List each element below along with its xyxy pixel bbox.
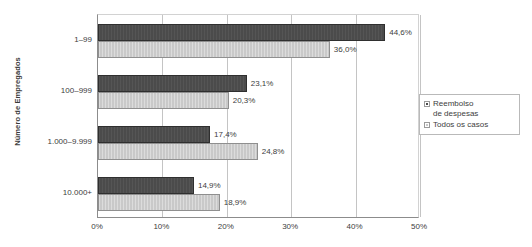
bar-group: 14,9%18,9% bbox=[98, 177, 418, 211]
x-axis-tick-label: 20% bbox=[206, 222, 246, 231]
bar-groups: 44,6%36,0%23,1%20,3%17,4%24,8%14,9%18,9% bbox=[98, 15, 418, 217]
plot-area: 44,6%36,0%23,1%20,3%17,4%24,8%14,9%18,9% bbox=[97, 14, 419, 218]
legend-label: Todos os casos bbox=[433, 120, 488, 130]
bar bbox=[98, 194, 220, 211]
legend-label: Reembolso de despesas bbox=[433, 99, 478, 119]
x-axis-tick-labels: 0%10%20%30%40%50% bbox=[97, 222, 419, 236]
bar-value-label: 20,3% bbox=[233, 92, 256, 109]
bar-value-label: 17,4% bbox=[214, 126, 237, 143]
legend-swatch-icon bbox=[424, 101, 430, 107]
bar bbox=[98, 92, 229, 109]
bar-value-label: 23,1% bbox=[251, 75, 274, 92]
bar-value-label: 44,6% bbox=[389, 24, 412, 41]
x-axis-tick-label: 40% bbox=[335, 222, 375, 231]
bar bbox=[98, 126, 210, 143]
bar bbox=[98, 24, 385, 41]
x-axis-tick-label: 10% bbox=[141, 222, 181, 231]
bar bbox=[98, 41, 330, 58]
bar-value-label: 14,9% bbox=[198, 177, 221, 194]
legend-item[interactable]: Todos os casos bbox=[424, 120, 516, 130]
x-axis-tick-label: 0% bbox=[77, 222, 117, 231]
legend-swatch-icon bbox=[424, 122, 430, 128]
x-axis-tick-label: 30% bbox=[270, 222, 310, 231]
bar-group: 23,1%20,3% bbox=[98, 75, 418, 109]
bar-chart: Número de Empregados 1–99100–9991.000–9.… bbox=[0, 0, 532, 247]
legend-item[interactable]: Reembolso de despesas bbox=[424, 99, 516, 119]
y-axis-tick-label: 10.000+ bbox=[0, 176, 92, 210]
bar-value-label: 36,0% bbox=[334, 41, 357, 58]
bar-value-label: 24,8% bbox=[262, 143, 285, 160]
y-axis-tick-labels: 1–99100–9991.000–9.99910.000+ bbox=[0, 14, 92, 218]
bar bbox=[98, 143, 258, 160]
y-axis-tick-label: 100–999 bbox=[0, 74, 92, 108]
bar bbox=[98, 177, 194, 194]
x-axis-tick-label: 50% bbox=[399, 222, 439, 231]
bar-value-label: 18,9% bbox=[224, 194, 247, 211]
bar bbox=[98, 75, 247, 92]
y-axis-tick-label: 1–99 bbox=[0, 23, 92, 57]
bar-group: 17,4%24,8% bbox=[98, 126, 418, 160]
legend: Reembolso de despesasTodos os casos bbox=[419, 94, 520, 135]
y-axis-tick-label: 1.000–9.999 bbox=[0, 125, 92, 159]
bar-group: 44,6%36,0% bbox=[98, 24, 418, 58]
